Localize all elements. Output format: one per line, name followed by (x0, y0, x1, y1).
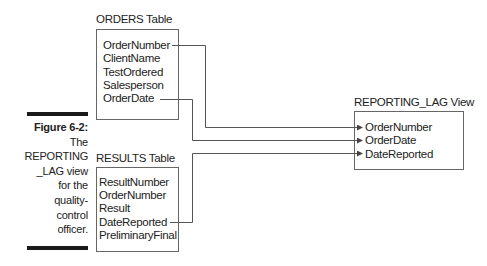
connector-datereported (170, 154, 362, 223)
connector-lines (0, 0, 487, 266)
connector-ordernumber (172, 46, 362, 128)
connector-orderdate (160, 100, 362, 141)
